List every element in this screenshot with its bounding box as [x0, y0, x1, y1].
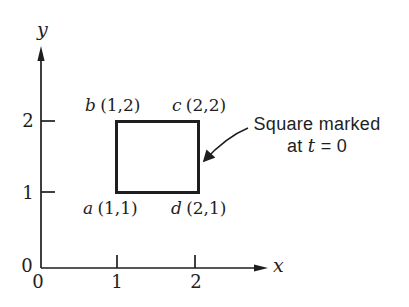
- leader-arrow: [204, 128, 248, 161]
- y-axis-arrowhead-icon: [37, 46, 44, 61]
- vertex-b-coords: (1,2): [100, 95, 140, 115]
- square-outline: [117, 122, 199, 193]
- y-tick-label-2: 2: [22, 110, 33, 131]
- vertex-label-a: a(1,1): [83, 198, 138, 218]
- x-axis-origin-label: 0: [32, 271, 43, 292]
- annotation-square-marked: Square marked at t = 0: [246, 114, 388, 157]
- figure-canvas: y x 2 1 0 0 1 2 b(1,2) c(2,2) a(1,1) d(2…: [0, 0, 409, 307]
- x-tick-label-1: 1: [111, 271, 122, 292]
- y-tick-label-1: 1: [22, 182, 33, 203]
- vertex-label-b: b(1,2): [85, 95, 140, 115]
- vertex-b-letter: b: [85, 95, 96, 115]
- vertex-label-d: d(2,1): [171, 198, 226, 218]
- annotation-line2-suffix: = 0: [315, 136, 347, 156]
- vertex-a-letter: a: [83, 198, 93, 218]
- vertex-a-coords: (1,1): [97, 198, 137, 218]
- x-tick-label-2: 2: [190, 271, 201, 292]
- vertex-d-coords: (2,1): [186, 198, 226, 218]
- vertex-c-letter: c: [172, 95, 182, 115]
- annotation-line2: at t = 0: [246, 135, 388, 157]
- y-axis-origin-label: 0: [21, 255, 32, 276]
- y-axis-label: y: [37, 18, 48, 40]
- annotation-line1: Square marked: [246, 114, 388, 135]
- vertex-c-coords: (2,2): [186, 95, 226, 115]
- x-axis-label: x: [273, 254, 284, 276]
- vertex-label-c: c(2,2): [172, 95, 226, 115]
- annotation-line2-prefix: at: [287, 136, 308, 156]
- vertex-d-letter: d: [171, 198, 182, 218]
- x-axis-arrowhead-icon: [254, 265, 268, 272]
